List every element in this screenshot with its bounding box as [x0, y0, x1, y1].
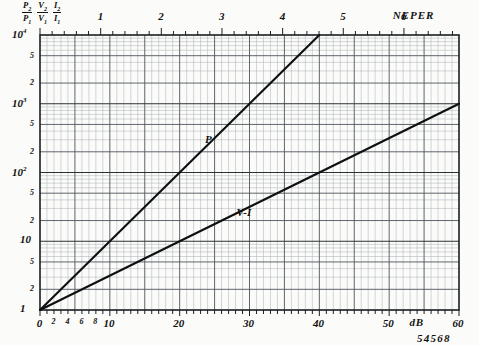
neper-tick-label: 1: [98, 10, 104, 22]
y-tick-minor: 2: [30, 78, 34, 87]
y-tick-decade: 104: [12, 27, 27, 40]
x-tick-major: 10: [103, 317, 114, 329]
fraction-numerator: P2: [22, 1, 32, 12]
drawing-number-stamp: 54568: [417, 332, 451, 344]
x-tick-minor: 8: [93, 317, 97, 326]
plot-svg: [0, 0, 479, 345]
curve-label-v-i: V-I: [237, 206, 252, 218]
fraction-denominator: V1: [37, 14, 48, 25]
y-tick-minor: 5: [30, 257, 34, 266]
y-tick-minor: 2: [30, 147, 34, 156]
neper-tick-label: 4: [280, 10, 286, 22]
curve-label-p: P: [205, 133, 212, 145]
y-tick-decade: 103: [12, 96, 27, 109]
x-tick-minor: 2: [51, 317, 55, 326]
x-tick-major: 40: [313, 317, 324, 329]
nomogram-figure: P2P1V2V1I2I1 12510251022510325104 246801…: [0, 0, 479, 345]
x-tick-major: 20: [173, 317, 184, 329]
y-axis-fraction-2: V2V1: [37, 1, 48, 25]
fraction-denominator: P1: [22, 14, 32, 25]
fraction-denominator: I1: [53, 14, 61, 25]
y-tick-decade: 10: [20, 233, 31, 245]
y-axis-fraction-1: P2P1: [22, 1, 32, 25]
x-tick-minor: 4: [65, 317, 69, 326]
axis-ticks-bottom: [40, 310, 459, 316]
fraction-numerator: V2: [37, 1, 48, 12]
x-tick-minor: 6: [79, 317, 83, 326]
neper-tick-label: 3: [219, 10, 225, 22]
x-tick-major: 50: [383, 317, 394, 329]
y-tick-minor: 2: [30, 284, 34, 293]
y-tick-minor: 5: [30, 119, 34, 128]
neper-tick-label: 5: [340, 10, 346, 22]
y-axis-fraction-3: I2I1: [53, 1, 61, 25]
y-tick-minor: 5: [30, 188, 34, 197]
y-tick-minor: 2: [30, 216, 34, 225]
y-tick-decade: 1: [20, 302, 26, 314]
x-tick-major: 0: [37, 317, 43, 329]
x-tick-major: 30: [243, 317, 254, 329]
neper-tick-label: 2: [158, 10, 164, 22]
x-axis-unit-db: dB: [410, 316, 424, 328]
y-tick-minor: 5: [30, 51, 34, 60]
axis-ticks-top: [40, 28, 452, 35]
x-axis-unit-neper: NEPER: [393, 9, 435, 21]
y-axis-heading: P2P1V2V1I2I1: [22, 1, 61, 25]
y-tick-decade: 102: [12, 165, 27, 178]
x-tick-major: 60: [453, 317, 464, 329]
fraction-numerator: I2: [53, 1, 61, 12]
